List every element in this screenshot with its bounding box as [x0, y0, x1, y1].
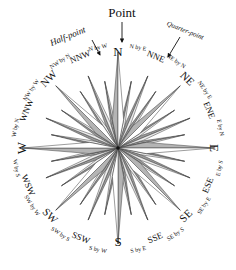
compass-annotations: PointHalf-pointQuarter-point	[47, 5, 205, 57]
compass-label-ene: ENE	[201, 100, 217, 120]
compass-label-sw-by-s: SW by S	[50, 226, 71, 243]
compass-label-ne-by-e: NE by E	[197, 80, 214, 101]
compass-label-sw-by-w: SW by W	[23, 194, 41, 217]
compass-center-hub	[116, 146, 120, 150]
compass-label-ne: NE	[178, 69, 197, 88]
compass-label-s-by-w: S by W	[88, 245, 107, 254]
annotation-label-quarter-point: Quarter-point	[166, 20, 206, 42]
compass-label-s: S	[114, 234, 121, 249]
annotation-label-half-point: Half-point	[47, 24, 87, 48]
compass-label-wsw: WSW	[19, 173, 37, 198]
compass-center-dot	[116, 146, 120, 150]
compass-label-n: N	[113, 44, 123, 59]
compass-label-e-by-s: E by S	[215, 160, 224, 177]
compass-label-ssw: SSW	[70, 230, 91, 247]
compass-label-nw-by-n: NW by N	[49, 52, 72, 70]
compass-label-s-by-e: S by E	[130, 245, 147, 254]
compass-label-w: W	[14, 141, 29, 154]
compass-rose-figure: NN by ENNENE by NNENE by EENEE by NEE by…	[0, 0, 236, 270]
compass-label-se-by-e: SE by E	[196, 195, 212, 215]
compass-rose-svg: NN by ENNENE by NNENE by EENEE by NEE by…	[0, 0, 236, 270]
star-point-sw-light-facet	[56, 148, 118, 210]
compass-label-e: E	[207, 144, 222, 152]
annotation-arrow-quarter-point	[168, 37, 180, 57]
star-point-se-light-facet	[118, 148, 180, 210]
compass-label-w-by-s: W by S	[12, 159, 21, 178]
star-point-nw-light-facet	[56, 86, 118, 148]
star-point-ne-light-facet	[118, 86, 180, 148]
compass-label-e-by-n: E by N	[216, 119, 225, 137]
compass-label-sse: SSE	[146, 230, 165, 245]
compass-label-nw: NW	[38, 67, 60, 89]
compass-label-nne: NNE	[145, 48, 166, 65]
annotation-label-point: Point	[108, 5, 136, 20]
compass-label-n-by-e: N by E	[129, 43, 147, 52]
compass-label-ese: ESE	[200, 175, 216, 194]
compass-label-se-by-s: SE by S	[166, 226, 185, 242]
